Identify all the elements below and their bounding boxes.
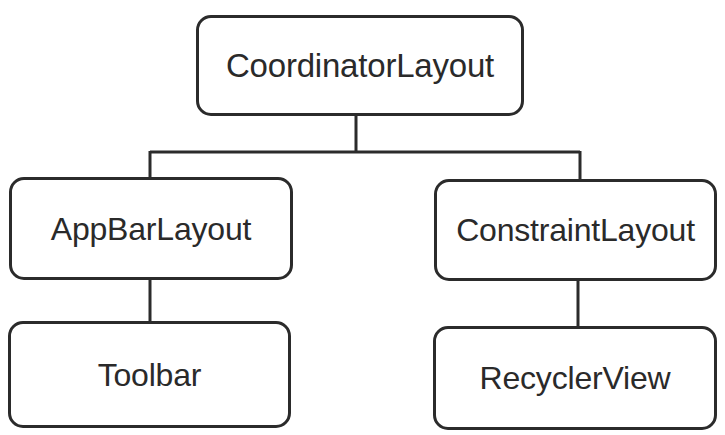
node-constraintlayout-label: ConstraintLayout [456, 214, 695, 246]
node-constraintlayout[interactable]: ConstraintLayout [434, 179, 717, 281]
node-appbarlayout-label: AppBarLayout [51, 213, 251, 245]
node-recyclerview[interactable]: RecyclerView [433, 326, 717, 430]
view-hierarchy-diagram: CoordinatorLayout AppBarLayout Constrain… [0, 0, 725, 435]
node-toolbar-label: Toolbar [98, 359, 202, 391]
node-recyclerview-label: RecyclerView [480, 362, 671, 394]
node-toolbar[interactable]: Toolbar [8, 321, 291, 428]
node-coordinatorlayout-label: CoordinatorLayout [226, 49, 494, 82]
node-coordinatorlayout[interactable]: CoordinatorLayout [196, 15, 524, 116]
node-appbarlayout[interactable]: AppBarLayout [9, 177, 293, 280]
